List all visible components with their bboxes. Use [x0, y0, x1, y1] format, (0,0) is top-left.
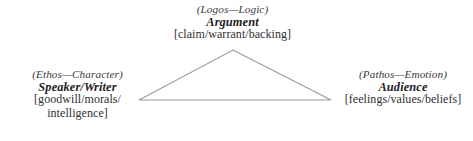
- node-ethos-role: Speaker/Writer: [14, 81, 141, 93]
- node-ethos-detail-line-2: intelligence]: [14, 107, 141, 120]
- node-pathos: (Pathos—Emotion) Audience [feelings/valu…: [333, 68, 473, 106]
- node-logos-role: Argument: [155, 16, 310, 28]
- node-pathos-appeal: (Pathos—Emotion): [333, 68, 473, 80]
- node-logos-appeal: (Logos—Logic): [155, 3, 310, 15]
- node-pathos-detail: [feelings/values/beliefs]: [333, 93, 473, 105]
- node-pathos-role: Audience: [333, 81, 473, 93]
- rhetorical-triangle-diagram: (Logos—Logic) Argument [claim/warrant/ba…: [0, 0, 473, 141]
- triangle-outline: [139, 50, 331, 100]
- node-ethos-detail-line-1: [goodwill/morals/: [14, 93, 141, 106]
- node-logos-detail: [claim/warrant/backing]: [155, 28, 310, 40]
- node-logos: (Logos—Logic) Argument [claim/warrant/ba…: [155, 3, 310, 41]
- node-ethos-appeal: (Ethos—Character): [14, 68, 141, 80]
- node-ethos: (Ethos—Character) Speaker/Writer [goodwi…: [14, 68, 141, 120]
